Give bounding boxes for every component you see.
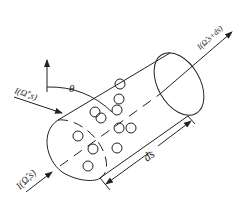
- incident-intensity-label: I(Ω̂',s): [12, 85, 38, 102]
- particle: [73, 131, 83, 141]
- particle: [88, 144, 98, 154]
- ds-extension-left: [100, 178, 110, 190]
- particle: [96, 113, 106, 123]
- particle: [90, 107, 100, 117]
- particle: [114, 94, 124, 104]
- intensity-in-label: I(Ω̂,s): [13, 166, 39, 192]
- particle: [126, 123, 136, 133]
- particle: [114, 123, 124, 133]
- cylinder-back-ellipse-hidden: [58, 120, 107, 178]
- cylinder-back-ellipse-solid: [47, 120, 100, 180]
- axis-out-arrow: [160, 32, 232, 94]
- intensity-out-label: I(Ω̂,s+ds): [195, 24, 225, 53]
- particle: [83, 161, 93, 171]
- particle: [112, 143, 122, 153]
- particle: [115, 79, 125, 89]
- radiative-transfer-diagram: θ I(Ω̂',s) I(Ω̂,s) I(Ω̂,s+ds) ds: [0, 0, 248, 212]
- incident-arrow: [14, 97, 62, 113]
- cylinder-bottom-edge: [100, 116, 188, 178]
- theta-arc: [47, 87, 112, 112]
- theta-label: θ: [69, 82, 75, 94]
- cylinder-top-edge: [58, 53, 170, 120]
- ds-label: ds: [140, 147, 157, 165]
- particle: [112, 105, 122, 115]
